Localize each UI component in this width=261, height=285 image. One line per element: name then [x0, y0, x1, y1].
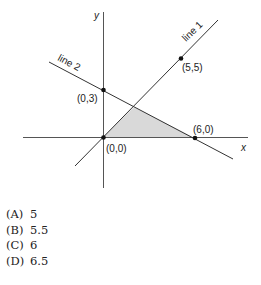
point-0-3 [101, 88, 106, 93]
choice-letter: (B) [6, 223, 30, 239]
line-2 [49, 62, 233, 159]
shaded-region [103, 107, 195, 138]
choice-b[interactable]: (B) 5.5 [6, 223, 48, 239]
choice-letter: (A) [6, 207, 30, 223]
choice-c[interactable]: (C) 6 [6, 238, 48, 254]
choice-letter: (C) [6, 238, 30, 254]
line-2-label: line 2 [56, 52, 83, 73]
coordinate-diagram: y x line 1 line 2 (0,0) (0,3) (5,5) (6,0… [0, 0, 261, 190]
answer-choices: (A) 5 (B) 5.5 (C) 6 (D) 6.5 [6, 207, 48, 269]
point-origin [101, 135, 106, 140]
point-5-5 [179, 56, 184, 61]
choice-value: 5 [30, 207, 37, 223]
choice-letter: (D) [6, 254, 30, 270]
x-axis-label: x [240, 142, 247, 153]
point-label-5-5: (5,5) [182, 62, 203, 73]
choice-value: 6 [30, 238, 37, 254]
point-label-origin: (0,0) [106, 143, 127, 154]
choice-a[interactable]: (A) 5 [6, 207, 48, 223]
line-1-label: line 1 [180, 19, 205, 44]
choice-value: 5.5 [30, 223, 48, 239]
choice-d[interactable]: (D) 6.5 [6, 254, 48, 270]
choice-value: 6.5 [30, 254, 48, 270]
y-axis-label: y [93, 10, 100, 21]
point-6-0 [193, 136, 198, 141]
point-label-6-0: (6,0) [193, 124, 214, 135]
point-label-0-3: (0,3) [77, 93, 98, 104]
